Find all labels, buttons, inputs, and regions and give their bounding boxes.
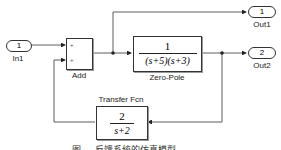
transfer-fcn-block[interactable]: 2 s+2: [96, 106, 148, 140]
outport-out2[interactable]: 2: [248, 47, 276, 59]
in1-port-number: 1: [17, 41, 21, 50]
out2-port-number: 2: [260, 48, 264, 57]
transfer-fcn-denominator: s+2: [97, 124, 147, 137]
outport-out1[interactable]: 1: [248, 6, 276, 18]
add-sign-1: +: [70, 42, 74, 48]
out1-label: Out1: [253, 20, 270, 29]
out2-label: Out2: [253, 61, 270, 70]
inport-in1[interactable]: 1: [6, 40, 32, 52]
zero-pole-denominator: (s+5)(s+3): [134, 54, 201, 67]
transfer-fcn-numerator: 2: [97, 110, 147, 123]
figure-caption: 图 … 反馈系统的仿真模型: [72, 143, 176, 150]
zero-pole-label: Zero-Pole: [149, 73, 184, 82]
add-label: Add: [72, 71, 86, 80]
transfer-fcn-label: Transfer Fcn: [98, 95, 143, 104]
out1-port-number: 1: [260, 7, 264, 16]
zero-pole-block[interactable]: 1 (s+5)(s+3): [133, 36, 202, 72]
add-sign-2: +: [70, 57, 74, 63]
add-block[interactable]: + +: [66, 38, 93, 70]
in1-label: In1: [12, 54, 23, 63]
zero-pole-numerator: 1: [134, 40, 201, 53]
